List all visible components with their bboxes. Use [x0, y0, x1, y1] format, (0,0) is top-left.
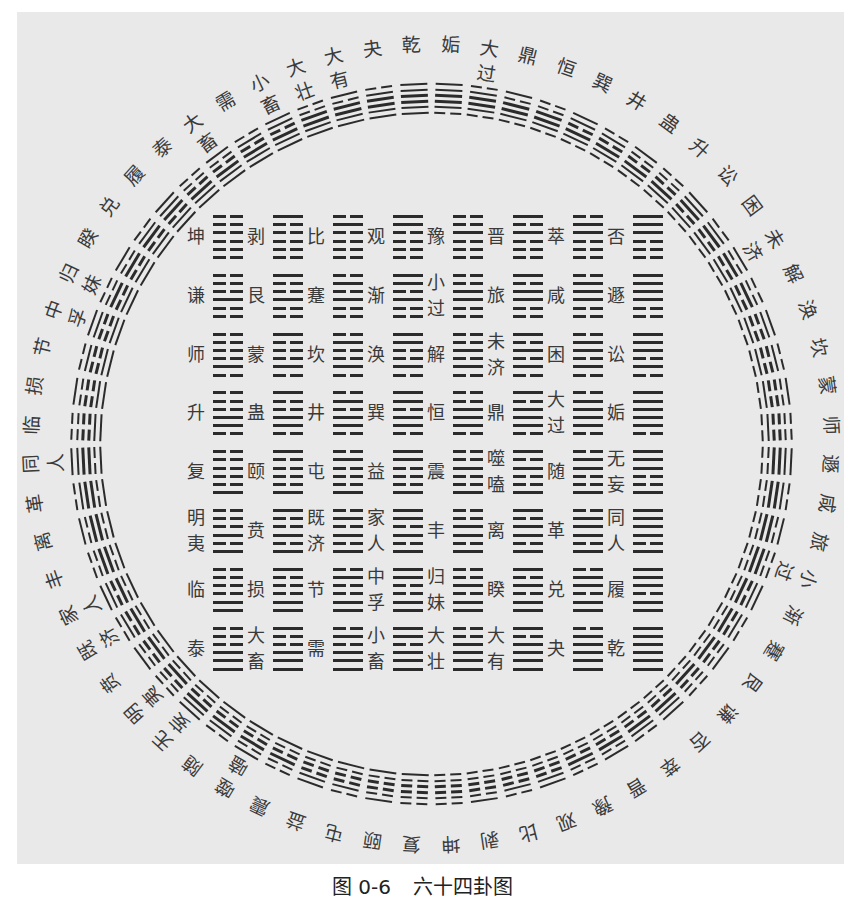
yin-line: [513, 400, 543, 403]
square-hexagram: [633, 568, 663, 612]
square-hexagram-name: 晋: [487, 224, 505, 250]
yang-line: [513, 584, 543, 587]
square-hexagram-name: 否: [607, 224, 625, 250]
square-hexagram-name: 大有: [487, 623, 505, 675]
square-hexagram-name: 未济: [487, 329, 505, 381]
yin-line: [513, 458, 543, 461]
square-hexagram-name: 谦: [187, 283, 205, 309]
square-hexagram: [453, 627, 483, 671]
yin-line: [333, 256, 363, 259]
yang-line: [393, 659, 423, 662]
yang-line: [453, 365, 483, 368]
square-hexagram-label: 未济: [485, 333, 507, 377]
yin-line: [453, 248, 483, 251]
yang-line: [633, 450, 663, 453]
yin-line: [333, 450, 363, 453]
yang-line: [453, 408, 483, 411]
yang-line: [573, 416, 603, 419]
yin-line: [453, 432, 483, 435]
square-hexagram-name: 明夷: [187, 505, 205, 557]
yang-line: [573, 534, 603, 537]
yin-line: [333, 584, 363, 587]
yang-line: [513, 627, 543, 630]
square-hexagram-name: 兑: [547, 577, 565, 603]
square-hexagram: [633, 274, 663, 318]
yang-line: [513, 215, 543, 218]
yang-line: [213, 601, 243, 604]
yang-line: [333, 458, 363, 461]
square-hexagram-name: 夬: [547, 636, 565, 662]
square-hexagram-name: 益: [367, 459, 385, 485]
yin-line: [273, 643, 303, 646]
yang-line: [573, 467, 603, 470]
yin-line: [333, 568, 363, 571]
yin-line: [513, 592, 543, 595]
caption-title: 六十四卦图: [413, 875, 513, 899]
yin-line: [333, 357, 363, 360]
yin-line: [453, 374, 483, 377]
yang-line: [513, 416, 543, 419]
yang-line: [633, 282, 663, 285]
yang-line: [273, 274, 303, 277]
yang-line: [333, 400, 363, 403]
square-hexagram-name: 小畜: [367, 623, 385, 675]
square-hexagram: [453, 568, 483, 612]
square-hexagram: [633, 509, 663, 553]
yin-line: [333, 231, 363, 234]
yin-line: [333, 525, 363, 528]
yang-line: [333, 298, 363, 301]
yin-line: [573, 215, 603, 218]
yin-line: [273, 542, 303, 545]
square-hexagram: [273, 333, 303, 377]
yang-line: [513, 601, 543, 604]
square-hexagram-label: 离: [485, 509, 507, 553]
square-hexagram: [573, 391, 603, 435]
yang-line: [573, 458, 603, 461]
yang-line: [273, 601, 303, 604]
figure-caption: 图 0-6六十四卦图: [332, 873, 513, 901]
yin-line: [273, 282, 303, 285]
yang-line: [453, 298, 483, 301]
yin-line: [273, 408, 303, 411]
yang-line: [273, 424, 303, 427]
square-hexagram-label: 节: [305, 568, 327, 612]
square-hexagram-label: 姤: [605, 391, 627, 435]
yang-line: [633, 643, 663, 646]
square-hexagram: [333, 627, 363, 671]
yang-line: [273, 568, 303, 571]
square-hexagram: [573, 274, 603, 318]
yang-line: [273, 298, 303, 301]
yang-line: [513, 231, 543, 234]
square-hexagram-name: 观: [367, 224, 385, 250]
yang-line: [213, 298, 243, 301]
yin-line: [333, 432, 363, 435]
yin-line: [333, 290, 363, 293]
square-hexagram-label: 蹇: [305, 274, 327, 318]
yang-line: [513, 643, 543, 646]
yin-line: [213, 223, 243, 226]
square-hexagram-label: 明夷: [185, 509, 207, 553]
square-hexagram-name: 比: [307, 224, 325, 250]
square-hexagram-name: 大过: [547, 387, 565, 439]
yang-line: [573, 584, 603, 587]
yin-line: [213, 408, 243, 411]
square-hexagram-label: 家人: [365, 509, 387, 553]
yin-line: [333, 215, 363, 218]
square-hexagram: [213, 274, 243, 318]
yin-line: [633, 592, 663, 595]
square-hexagram: [213, 333, 243, 377]
yin-line: [273, 584, 303, 587]
yin-line: [213, 341, 243, 344]
yang-line: [273, 509, 303, 512]
yin-line: [513, 248, 543, 251]
yang-line: [513, 424, 543, 427]
square-hexagram: [333, 391, 363, 435]
square-hexagram-name: 渐: [367, 283, 385, 309]
square-hexagram: [513, 450, 543, 494]
yin-line: [513, 282, 543, 285]
yang-line: [633, 416, 663, 419]
square-hexagram: [573, 450, 603, 494]
square-hexagram-label: 小过: [425, 274, 447, 318]
square-hexagram-label: 艮: [245, 274, 267, 318]
square-hexagram-label: 革: [545, 509, 567, 553]
